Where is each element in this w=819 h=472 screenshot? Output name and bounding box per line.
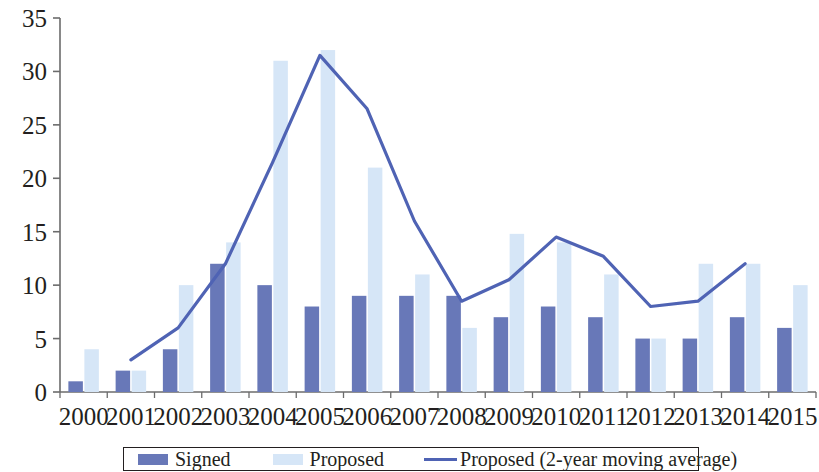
bar-signed [777,328,792,392]
bar-proposed [132,371,147,392]
legend-item-moving-average: Proposed (2-year moving average) [424,448,737,470]
bar-signed [446,296,461,392]
svg-text:2003: 2003 [200,403,250,430]
bar-signed [399,296,414,392]
svg-text:2000: 2000 [59,403,109,430]
bar-signed [305,307,320,392]
bar-proposed [793,285,808,392]
bar-signed [163,349,178,392]
svg-text:2015: 2015 [767,403,817,430]
svg-text:2008: 2008 [437,403,487,430]
bar-proposed [746,264,761,392]
svg-text:2013: 2013 [673,403,723,430]
bar-proposed [510,234,525,392]
legend-item-proposed: Proposed [273,448,384,470]
svg-text:2010: 2010 [531,403,581,430]
svg-text:2011: 2011 [579,403,628,430]
svg-text:0: 0 [35,379,48,406]
bar-proposed [604,274,619,392]
svg-text:2012: 2012 [626,403,676,430]
legend-label-moving-average: Proposed (2-year moving average) [460,449,737,469]
bar-signed [68,381,83,392]
bar-signed [116,371,131,392]
svg-text:2009: 2009 [484,403,534,430]
y-axis-tick-labels: 05101520253035 [22,5,47,406]
legend-swatch-signed-icon [138,454,168,465]
bar-signed [635,339,650,392]
bar-proposed [368,168,383,392]
bar-proposed [84,349,99,392]
bar-proposed [179,285,194,392]
bar-proposed [699,264,714,392]
bar-proposed [651,339,666,392]
svg-text:2004: 2004 [248,403,299,430]
chart-legend: Signed Proposed Proposed (2-year moving … [123,447,699,471]
bar-proposed [273,61,288,392]
chart-figure: 05101520253035 2000200120022003200420052… [0,0,819,472]
svg-text:2006: 2006 [342,403,392,430]
plot-area: 05101520253035 2000200120022003200420052… [0,0,819,445]
bar-proposed [415,274,430,392]
bar-signed [257,285,272,392]
bars-series-proposed [84,50,807,392]
bar-proposed [226,242,241,392]
svg-text:2002: 2002 [153,403,203,430]
svg-text:2007: 2007 [389,403,439,430]
bar-proposed [462,328,477,392]
svg-text:35: 35 [22,5,47,32]
bar-signed [352,296,367,392]
svg-text:2005: 2005 [295,403,345,430]
bar-signed [683,339,698,392]
svg-text:2001: 2001 [106,403,156,430]
bar-signed [494,317,509,392]
svg-text:10: 10 [22,272,47,299]
legend-line-moving-average-icon [424,458,457,461]
svg-text:20: 20 [22,165,47,192]
legend-swatch-proposed-icon [273,454,303,465]
legend-item-signed: Signed [138,448,231,470]
svg-text:25: 25 [22,112,47,139]
bar-proposed [321,50,336,392]
svg-text:15: 15 [22,219,47,246]
svg-text:30: 30 [22,58,47,85]
x-axis-tick-labels: 2000200120022003200420052006200720082009… [59,403,818,430]
bar-proposed [557,242,572,392]
legend-label-signed: Signed [175,449,231,469]
svg-text:5: 5 [35,326,48,353]
svg-text:2014: 2014 [720,403,771,430]
bar-signed [541,307,556,392]
bar-signed [730,317,745,392]
legend-label-proposed: Proposed [310,449,384,469]
bar-signed [588,317,603,392]
